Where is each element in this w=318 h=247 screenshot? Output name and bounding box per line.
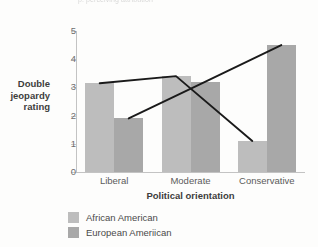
legend-label: European Ameriican xyxy=(86,228,172,238)
y-tick-label: 4 xyxy=(62,54,76,64)
bar-conservative-series-1 xyxy=(267,45,296,172)
figure-page: p. perceiving attribution Double jeopard… xyxy=(0,0,318,247)
y-tick-label-wrap: 0 xyxy=(52,167,76,177)
legend-swatch-icon xyxy=(68,227,79,238)
bar-liberal-series-1 xyxy=(114,118,143,172)
x-axis-line xyxy=(76,172,305,173)
legend-label: African American xyxy=(86,213,158,223)
bar-conservative-series-0 xyxy=(238,141,267,172)
y-tick-label: 1 xyxy=(62,139,76,149)
legend-swatch-icon xyxy=(68,212,79,223)
y-tick-label-wrap: 4 xyxy=(52,54,76,64)
y-tick-label-wrap: 1 xyxy=(52,139,76,149)
y-axis-title-line-2: jeopardy xyxy=(2,90,50,102)
y-tick-label-wrap: 3 xyxy=(52,82,76,92)
x-axis-title: Political orientation xyxy=(76,190,305,201)
x-category-label-conservative: Conservative xyxy=(227,176,307,186)
bar-liberal-series-0 xyxy=(85,83,114,172)
y-tick-label: 5 xyxy=(62,26,76,36)
chart-legend: African AmericanEuropean Ameriican xyxy=(68,210,172,240)
x-category-label-moderate: Moderate xyxy=(151,176,231,186)
y-tick-label-wrap: 5 xyxy=(52,26,76,36)
bar-moderate-series-0 xyxy=(162,76,191,172)
y-tick-label: 2 xyxy=(62,111,76,121)
y-axis-title: Double jeopardy rating xyxy=(2,78,50,113)
legend-item-1: European Ameriican xyxy=(68,225,172,240)
y-tick-label-wrap: 2 xyxy=(52,111,76,121)
y-tick-label: 3 xyxy=(62,82,76,92)
bar-moderate-series-1 xyxy=(191,82,220,172)
y-axis-title-line-1: Double xyxy=(2,78,50,90)
legend-item-0: African American xyxy=(68,210,172,225)
y-axis-title-line-3: rating xyxy=(2,101,50,113)
y-axis-line xyxy=(76,31,77,173)
x-category-label-liberal: Liberal xyxy=(74,176,154,186)
